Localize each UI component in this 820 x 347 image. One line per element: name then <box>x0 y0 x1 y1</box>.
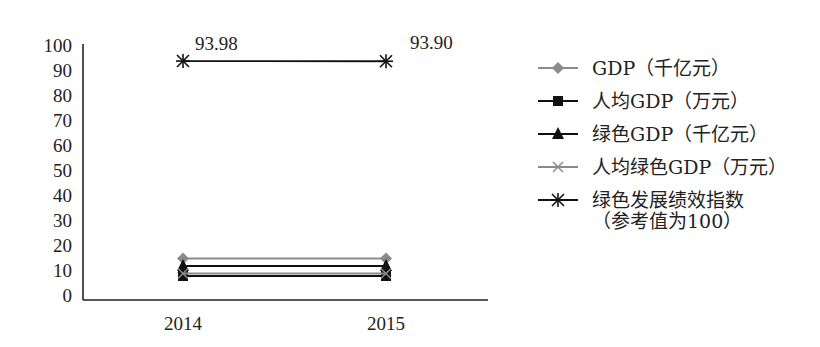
y-tick-label: 60 <box>53 135 72 156</box>
legend-item: GDP（千亿元） <box>538 58 820 91</box>
diamond-marker-icon <box>552 62 564 74</box>
series-1 <box>178 271 391 281</box>
legend-swatch-icon <box>538 190 578 210</box>
legend-swatch-icon <box>538 58 578 78</box>
asterisk-marker-icon <box>379 54 393 68</box>
y-tick-label: 30 <box>53 210 72 231</box>
y-tick-label: 40 <box>53 185 72 206</box>
series-4 <box>176 54 393 68</box>
data-label: 93.98 <box>195 33 238 54</box>
asterisk-marker-icon <box>176 54 190 68</box>
y-tick-label: 70 <box>53 110 72 131</box>
data-label: 93.90 <box>410 32 453 53</box>
square-marker-icon <box>553 96 563 106</box>
x-tick-label: 2015 <box>367 313 405 334</box>
asterisk-marker-icon <box>551 193 565 207</box>
y-tick-label: 20 <box>53 235 72 256</box>
series-0 <box>177 253 392 265</box>
legend-label: 绿色GDP（千亿元） <box>592 124 768 145</box>
legend-label: 人均绿色GDP（万元） <box>592 157 787 178</box>
y-tick-label: 90 <box>53 60 72 81</box>
legend-swatch-icon <box>538 157 578 177</box>
y-tick-label: 10 <box>53 260 72 281</box>
legend: GDP（千亿元）人均GDP（万元）绿色GDP（千亿元）人均绿色GDP（万元）绿色… <box>538 58 820 250</box>
legend-label: GDP（千亿元） <box>592 58 730 79</box>
legend-swatch-icon <box>538 124 578 144</box>
x-tick-label: 2014 <box>164 313 203 334</box>
legend-swatch-icon <box>538 91 578 111</box>
y-tick-label: 100 <box>44 35 73 56</box>
y-tick-label: 50 <box>53 160 72 181</box>
legend-item: 绿色发展绩效指数 （参考值为100） <box>538 190 820 250</box>
legend-item: 人均绿色GDP（万元） <box>538 157 820 190</box>
legend-item: 绿色GDP（千亿元） <box>538 124 820 157</box>
y-tick-label: 0 <box>63 285 73 306</box>
legend-item: 人均GDP（万元） <box>538 91 820 124</box>
series-3 <box>178 269 391 279</box>
legend-label: 人均GDP（万元） <box>592 91 749 112</box>
triangle-marker-icon <box>552 127 564 139</box>
y-tick-label: 80 <box>53 85 72 106</box>
series-2 <box>177 259 392 271</box>
legend-label: 绿色发展绩效指数 （参考值为100） <box>592 190 744 232</box>
